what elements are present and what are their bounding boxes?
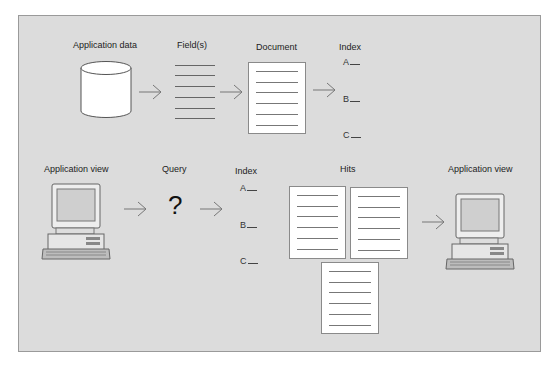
index-entry-b: B [240, 220, 257, 230]
label-index-bottom: Index [235, 166, 257, 176]
label-query: Query [162, 164, 187, 174]
arrow-icon [124, 201, 148, 217]
computer-icon [40, 183, 112, 261]
question-mark-icon: ? [168, 190, 182, 221]
index-entry-a: A [240, 183, 257, 193]
label-index-top: Index [339, 42, 361, 52]
hit-document-icon [321, 262, 379, 334]
index-entry-b: B [343, 94, 360, 104]
computer-icon [444, 193, 516, 271]
index-entry-c: C [240, 256, 258, 266]
label-fields: Field(s) [177, 40, 207, 50]
document-icon [248, 62, 306, 134]
arrow-icon [139, 84, 163, 100]
label-application-view-right: Application view [448, 164, 513, 174]
label-application-data: Application data [73, 40, 137, 50]
hit-document-icon [350, 187, 408, 259]
label-document: Document [256, 42, 297, 52]
arrow-icon [313, 82, 337, 98]
index-entry-a: A [343, 57, 360, 67]
label-application-view-left: Application view [44, 164, 109, 174]
database-icon [80, 61, 132, 119]
arrow-icon [220, 84, 244, 100]
arrow-icon [200, 201, 224, 217]
arrow-icon [422, 214, 446, 230]
label-hits: Hits [340, 164, 356, 174]
hit-document-icon [289, 186, 346, 259]
index-entry-c: C [343, 130, 361, 140]
